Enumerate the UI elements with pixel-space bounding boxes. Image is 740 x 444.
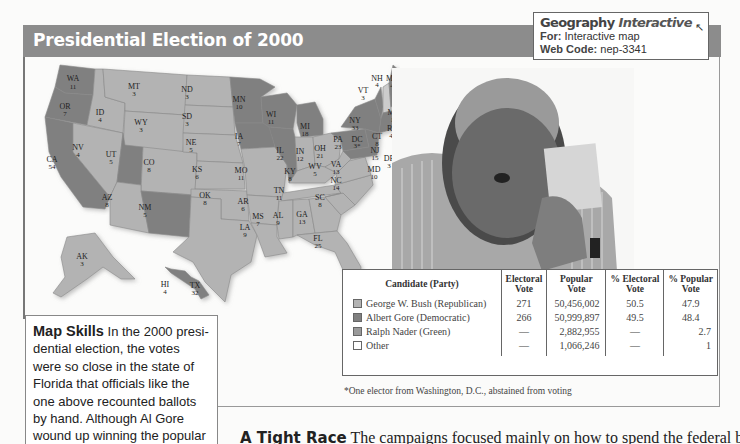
- svg-text:4: 4: [163, 288, 167, 296]
- svg-text:3: 3: [387, 162, 391, 170]
- results-table: Candidate (Party) ElectoralVote PopularV…: [343, 270, 717, 356]
- svg-text:9: 9: [276, 219, 280, 227]
- svg-text:5: 5: [109, 158, 113, 166]
- svg-text:14: 14: [333, 184, 341, 192]
- democratic-swatch-icon: [353, 313, 362, 322]
- svg-text:33: 33: [352, 124, 360, 132]
- svg-text:4: 4: [375, 81, 379, 89]
- svg-text:5: 5: [313, 170, 317, 178]
- map-skills-text: In the 2000 presi-dential election, the …: [33, 324, 209, 444]
- svg-text:15: 15: [372, 154, 380, 162]
- table-row-other: Other — 1,066,246 — 1: [343, 339, 717, 356]
- col-popular-vote: PopularVote: [547, 270, 606, 297]
- brand-bold: Geography: [540, 15, 615, 30]
- svg-text:22: 22: [277, 154, 285, 162]
- svg-text:WA: WA: [67, 74, 80, 83]
- election-results-table: Candidate (Party) ElectoralVote PopularV…: [342, 269, 718, 376]
- svg-text:6: 6: [241, 205, 245, 213]
- svg-text:3: 3: [139, 126, 143, 134]
- svg-text:5: 5: [143, 211, 147, 219]
- svg-text:3: 3: [185, 93, 189, 101]
- svg-text:3: 3: [361, 94, 365, 102]
- svg-text:3: 3: [185, 120, 189, 128]
- table-row-nader: Ralph Nader (Green) — 2,882,955 — 2.7: [343, 325, 717, 339]
- svg-text:5: 5: [189, 146, 193, 154]
- svg-text:7: 7: [237, 140, 241, 148]
- for-label: For:: [540, 30, 561, 42]
- paragraph-heading: A Tight Race: [240, 429, 347, 444]
- svg-text:10: 10: [371, 173, 379, 181]
- other-swatch-icon: [353, 341, 362, 350]
- map-skills-heading: Map Skills: [33, 323, 104, 339]
- state-ak: [53, 233, 135, 297]
- paragraph-text: The campaigns focused mainly on how to s…: [347, 429, 740, 444]
- svg-text:8: 8: [318, 201, 322, 209]
- svg-text:18: 18: [302, 130, 310, 138]
- col-candidate: Candidate (Party): [343, 270, 501, 297]
- svg-text:13: 13: [299, 218, 307, 226]
- svg-text:3: 3: [132, 90, 136, 98]
- ballot-recount-photo: [392, 68, 634, 271]
- table-row-bush: George W. Bush (Republican) 271 50,456,0…: [343, 297, 717, 311]
- svg-text:6: 6: [195, 173, 199, 181]
- mouse-pointer-icon: ↖: [695, 21, 704, 34]
- svg-text:4: 4: [98, 116, 102, 124]
- svg-text:8: 8: [147, 166, 151, 174]
- webcode-line: Web Code: nep-3341: [540, 43, 702, 56]
- divider: [342, 406, 720, 407]
- webcode-value[interactable]: nep-3341: [600, 43, 647, 55]
- svg-text:32: 32: [192, 289, 200, 297]
- webcode-label: Web Code:: [540, 43, 597, 55]
- brand-italic: Interactive: [618, 15, 691, 30]
- republican-swatch-icon: [353, 299, 362, 308]
- svg-text:25: 25: [315, 242, 323, 250]
- map-skills-box: Map Skills In the 2000 presi-dential ele…: [25, 315, 218, 444]
- divider: [218, 406, 342, 407]
- svg-text:23: 23: [335, 143, 343, 151]
- state-ny: [341, 99, 381, 133]
- table-footnote: *One elector from Washington, D.C., abst…: [344, 386, 572, 396]
- frame-right-rule: [719, 57, 720, 407]
- svg-text:3*: 3*: [354, 142, 362, 150]
- svg-text:54: 54: [49, 163, 57, 171]
- geography-interactive-box[interactable]: Geography Interactive ↖ For: Interactive…: [533, 12, 709, 60]
- svg-text:8: 8: [203, 199, 207, 207]
- svg-text:11: 11: [276, 194, 283, 202]
- svg-text:11: 11: [238, 174, 245, 182]
- svg-text:11: 11: [70, 83, 77, 91]
- svg-text:10: 10: [236, 103, 244, 111]
- svg-text:4: 4: [76, 151, 80, 159]
- col-pct-popular: % PopularVote: [664, 270, 717, 297]
- svg-text:3: 3: [80, 260, 84, 268]
- svg-text:7: 7: [63, 110, 67, 118]
- table-row-gore: Albert Gore (Democratic) 266 50,999,897 …: [343, 311, 717, 325]
- for-value: Interactive map: [564, 30, 639, 42]
- photo-svg: [392, 68, 634, 271]
- green-swatch-icon: [353, 327, 362, 336]
- svg-text:21: 21: [317, 152, 325, 160]
- geography-interactive-logo: Geography Interactive: [540, 15, 702, 30]
- svg-text:11: 11: [268, 118, 275, 126]
- svg-text:8: 8: [288, 175, 292, 183]
- body-paragraph: A Tight Race The campaigns focused mainl…: [240, 429, 740, 444]
- col-electoral-vote: ElectoralVote: [501, 270, 546, 297]
- state-nm: [141, 191, 191, 237]
- svg-text:13: 13: [333, 168, 341, 176]
- col-pct-electoral: % ElectoralVote: [606, 270, 664, 297]
- for-line: For: Interactive map: [540, 30, 702, 43]
- svg-text:8: 8: [105, 201, 109, 209]
- svg-text:7: 7: [256, 220, 260, 228]
- svg-text:12: 12: [297, 155, 305, 163]
- svg-text:9: 9: [243, 231, 247, 239]
- table-header-row: Candidate (Party) ElectoralVote PopularV…: [343, 270, 717, 297]
